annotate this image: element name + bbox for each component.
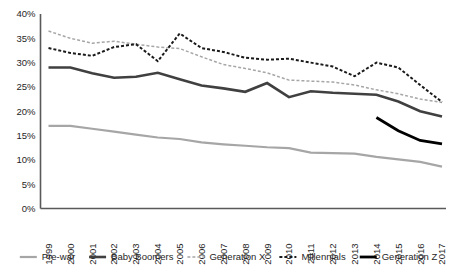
legend-label-millennials: Millennials — [301, 251, 346, 262]
y-tick-label: 35% — [16, 33, 36, 44]
series-line-baby-boomers — [49, 67, 443, 116]
line-chart: 0%5%10%15%20%25%30%35%40% 19992000200120… — [0, 0, 457, 275]
x-tick-label: 2005 — [174, 244, 185, 265]
y-tick-label: 40% — [16, 8, 36, 19]
y-tick-label: 20% — [16, 106, 36, 117]
legend-label-generation-z: Generation Z — [382, 251, 438, 262]
y-tick-label: 5% — [22, 179, 36, 190]
y-axis-tick-labels: 0%5%10%15%20%25%30%35%40% — [16, 8, 36, 214]
y-tick-label: 30% — [16, 57, 36, 68]
legend-label-baby-boomers: Baby Boomers — [111, 251, 174, 262]
series-line-generation-z — [376, 118, 442, 144]
y-tick-label: 15% — [16, 130, 36, 141]
y-tick-label: 0% — [22, 203, 36, 214]
series-line-pre-war — [49, 126, 443, 167]
x-tick-label: 2006 — [196, 244, 207, 265]
x-tick-label: 2010 — [283, 244, 294, 265]
series-lines — [49, 31, 443, 167]
x-tick-label: 2001 — [87, 244, 98, 265]
legend-label-generation-x: Generation X — [209, 251, 266, 262]
x-tick-label: 2014 — [371, 244, 382, 265]
y-tick-label: 25% — [16, 81, 36, 92]
y-tick-label: 10% — [16, 154, 36, 165]
chart-axes — [41, 14, 447, 209]
chart-canvas: 0%5%10%15%20%25%30%35%40% 19992000200120… — [0, 0, 457, 275]
legend-label-pre-war: Pre-war — [42, 251, 75, 262]
x-tick-label: 2013 — [349, 244, 360, 265]
x-tick-label: 2017 — [436, 244, 447, 265]
